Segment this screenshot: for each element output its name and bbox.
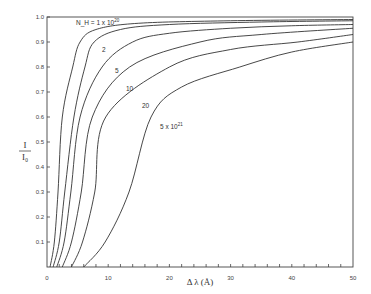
x-tick-label: 10 <box>105 275 112 281</box>
curve-series-4 <box>71 35 353 268</box>
y-tick-label: 0.6 <box>36 114 45 120</box>
x-tick-label: 40 <box>288 275 295 281</box>
curve-labels: N_H = 1 x 10202510205 x 1021 <box>76 18 183 130</box>
y-tick-label: 0.3 <box>36 189 45 195</box>
curve-label: 5 <box>115 67 119 74</box>
x-axis-label: Δ λ (Å) <box>187 277 214 287</box>
y-axis: 0.10.20.30.40.50.60.70.80.91.0 <box>36 14 50 245</box>
origin-label: 0 <box>45 275 49 281</box>
y-tick-label: 0.8 <box>36 64 45 70</box>
curve-label: 2 <box>102 46 106 53</box>
curve-label: 10 <box>126 85 134 92</box>
plot-frame <box>47 17 353 267</box>
curve-series-2 <box>57 25 353 268</box>
y-tick-label: 0.5 <box>36 139 45 145</box>
y-tick-label: 0.2 <box>36 214 45 220</box>
y-axis-label-denominator: I₀ <box>22 152 28 162</box>
curve-series-5 <box>84 42 353 267</box>
curve-series-0 <box>50 20 353 268</box>
y-tick-label: 0.4 <box>36 164 45 170</box>
curve-label: 5 x 1021 <box>160 122 183 130</box>
y-tick-label: 1.0 <box>36 14 45 20</box>
curve-label: 20 <box>142 102 150 109</box>
curve-label: N_H = 1 x 1020 <box>76 18 120 27</box>
line-chart: 0.10.20.30.40.50.60.70.80.91.0 102030405… <box>0 0 371 294</box>
plot-border <box>47 17 353 267</box>
curves <box>50 20 353 268</box>
x-tick-label: 30 <box>227 275 234 281</box>
y-tick-label: 0.7 <box>36 89 45 95</box>
y-tick-label: 0.9 <box>36 39 45 45</box>
x-tick-label: 50 <box>350 275 357 281</box>
y-axis-label-numerator: I <box>24 140 27 150</box>
x-tick-label: 20 <box>166 275 173 281</box>
y-tick-label: 0.1 <box>36 239 45 245</box>
curve-series-3 <box>62 28 353 267</box>
